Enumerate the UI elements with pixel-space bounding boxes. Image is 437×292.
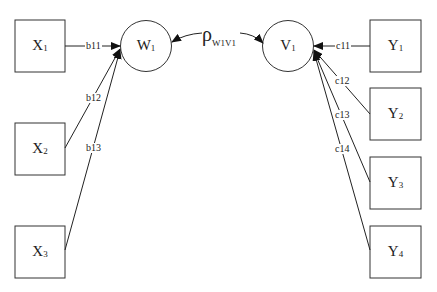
edge-label-c14: c14 (334, 144, 350, 154)
edge-rho-to-v1 (240, 33, 263, 43)
correlation-label: ρW1V1 (202, 24, 236, 48)
edge-label-b11: b11 (85, 41, 102, 51)
label-w1: W1 (121, 38, 171, 53)
edge-label-c13: c13 (334, 110, 350, 120)
label-y3: Y3 (370, 175, 421, 190)
edge-rho-to-w1 (172, 33, 202, 42)
label-y1: Y1 (370, 38, 421, 53)
label-x2: X2 (15, 141, 65, 156)
label-x3: X3 (15, 244, 65, 259)
edge-label-b13: b13 (85, 143, 102, 153)
label-v1: V1 (263, 38, 313, 53)
label-x1: X1 (15, 38, 65, 53)
edge-label-b12: b12 (85, 93, 102, 103)
edge-label-c12: c12 (334, 76, 350, 86)
label-y4: Y4 (370, 244, 421, 259)
label-y2: Y2 (370, 106, 421, 121)
edge-label-c11: c11 (335, 41, 351, 51)
